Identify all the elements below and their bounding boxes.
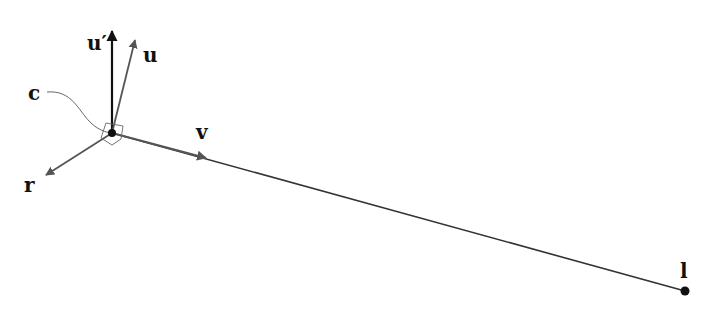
label-c: c — [28, 81, 40, 105]
vector-v-arrow — [112, 133, 206, 158]
point-l-dot — [681, 287, 690, 296]
diagram-canvas: u′ u c v r l — [0, 0, 702, 311]
vector-r-arrow — [46, 133, 112, 175]
label-u: u — [143, 43, 158, 67]
label-c-leader-curve — [47, 92, 110, 133]
label-l: l — [680, 259, 688, 283]
label-r: r — [24, 173, 35, 197]
vector-u-arrow — [112, 40, 135, 133]
point-c-dot — [108, 129, 116, 137]
label-u-prime: u′ — [87, 31, 107, 55]
label-v: v — [195, 120, 209, 144]
